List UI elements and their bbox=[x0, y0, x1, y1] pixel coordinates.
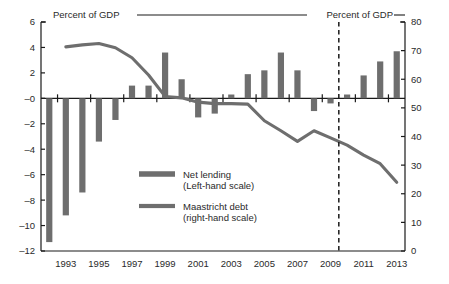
right-axis-tick-label: 80 bbox=[411, 16, 422, 27]
bar bbox=[179, 79, 185, 98]
x-axis-tick-label: 2013 bbox=[386, 258, 407, 269]
x-axis-tick-label: 2001 bbox=[188, 258, 209, 269]
bar bbox=[361, 75, 367, 98]
x-axis-tick-label: 2009 bbox=[320, 258, 341, 269]
left-axis-tick-label: –8 bbox=[24, 195, 35, 206]
bar bbox=[129, 86, 135, 99]
bar bbox=[228, 95, 234, 99]
right-axis-tick-label: 40 bbox=[411, 131, 422, 142]
bar bbox=[278, 53, 284, 99]
x-axis-tick-label: 2005 bbox=[254, 258, 275, 269]
right-axis-caption: Percent of GDP bbox=[326, 9, 393, 20]
legend-sublabel: (right-hand scale) bbox=[183, 212, 257, 223]
bar bbox=[46, 98, 52, 242]
x-axis-tick-label: 2003 bbox=[221, 258, 242, 269]
left-axis-tick-label: –10 bbox=[19, 220, 35, 231]
chart-figure: 642–0–2–4–6–8–10–12807060504030201001993… bbox=[0, 0, 449, 284]
right-axis-tick-label: 0 bbox=[411, 245, 416, 256]
x-axis-tick-label: 1997 bbox=[121, 258, 142, 269]
bar bbox=[261, 70, 267, 98]
bar bbox=[377, 61, 383, 98]
bar bbox=[344, 95, 350, 99]
left-axis-tick-label: 2 bbox=[30, 67, 35, 78]
bar bbox=[294, 70, 300, 98]
left-axis-tick-label: 6 bbox=[30, 16, 35, 27]
left-axis-tick-label: –0 bbox=[24, 93, 35, 104]
bar bbox=[212, 98, 218, 113]
bar bbox=[96, 98, 102, 141]
left-axis-tick-label: –4 bbox=[24, 144, 35, 155]
legend-swatch bbox=[139, 171, 175, 177]
x-axis-tick-label: 1999 bbox=[155, 258, 176, 269]
left-axis-tick-label: –12 bbox=[19, 245, 35, 256]
legend-label: Net lending bbox=[183, 169, 231, 180]
right-axis-tick-label: 50 bbox=[411, 102, 422, 113]
bar bbox=[112, 98, 118, 120]
right-axis-tick-label: 60 bbox=[411, 74, 422, 85]
right-axis-tick-label: 20 bbox=[411, 188, 422, 199]
bar bbox=[145, 86, 151, 99]
x-axis-tick-label: 2011 bbox=[353, 258, 373, 269]
bar bbox=[79, 98, 85, 192]
bar bbox=[327, 98, 333, 103]
right-axis-tick-label: 70 bbox=[411, 45, 422, 56]
left-axis-tick-label: –6 bbox=[24, 169, 35, 180]
right-axis-tick-label: 10 bbox=[411, 217, 422, 228]
left-axis-tick-label: 4 bbox=[30, 42, 35, 53]
chart-canvas: 642–0–2–4–6–8–10–12807060504030201001993… bbox=[0, 0, 449, 284]
x-axis-tick-label: 1993 bbox=[55, 258, 76, 269]
legend-swatch bbox=[139, 204, 175, 208]
legend-sublabel: (Left-hand scale) bbox=[183, 180, 254, 191]
legend-label: Maastricht debt bbox=[183, 201, 248, 212]
left-axis-tick-label: –2 bbox=[24, 118, 35, 129]
left-axis-caption: Percent of GDP bbox=[53, 9, 120, 20]
chart-legend bbox=[139, 171, 175, 208]
bar bbox=[311, 98, 317, 111]
bar bbox=[63, 98, 69, 215]
right-axis-tick-label: 30 bbox=[411, 160, 422, 171]
x-axis-tick-label: 2007 bbox=[287, 258, 308, 269]
bar bbox=[245, 74, 251, 98]
bar bbox=[394, 51, 400, 98]
x-axis-tick-label: 1995 bbox=[88, 258, 109, 269]
